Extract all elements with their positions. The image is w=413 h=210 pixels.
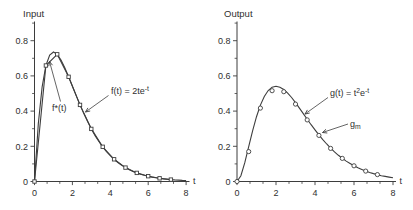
circle-marker [235, 179, 239, 183]
leader-line [50, 62, 61, 102]
g-curve-line [237, 86, 393, 181]
x-tick-label: 4 [108, 188, 113, 198]
y-tick-label: 0 [23, 177, 28, 187]
g-m-label-text: gm [350, 119, 361, 130]
circle-marker [364, 169, 368, 173]
y-tick-label: 0.2 [218, 142, 231, 152]
y-tick-label: 0 [225, 177, 230, 187]
leader-line [323, 124, 349, 133]
x-tick-label: 4 [312, 188, 317, 198]
y-tick-label: 0.2 [15, 142, 28, 152]
x-axis-label: t [400, 176, 403, 186]
square-marker [67, 75, 70, 78]
charts-canvas: 00.20.40.60.802468tInputf*(t)f(t) = 2te-… [0, 0, 413, 210]
circle-marker [282, 90, 286, 94]
leader-line [86, 96, 109, 113]
square-marker [158, 177, 161, 180]
leader-line [305, 98, 328, 115]
y-axis-ticks: 00.20.40.60.8 [15, 23, 34, 187]
f-curve-label: f(t) = 2te-t [86, 85, 150, 112]
circle-marker [352, 164, 356, 168]
square-marker [147, 175, 150, 178]
x-tick-label: 0 [32, 188, 37, 198]
g-m-label: gm [323, 119, 362, 133]
f-curve-line [35, 52, 187, 182]
chart-title: Input [23, 8, 44, 19]
circle-marker [247, 150, 251, 154]
y-tick-label: 0.8 [218, 36, 231, 46]
f-curve-label-text: f(t) = 2te-t [111, 85, 149, 96]
x-tick-label: 8 [390, 188, 395, 198]
square-marker [90, 127, 93, 130]
square-marker [101, 145, 104, 148]
x-axis-label: t [193, 176, 196, 186]
g-curve [237, 86, 393, 181]
x-axis-ticks: 02468 [32, 182, 189, 199]
circle-marker [270, 89, 274, 93]
square-marker [169, 178, 172, 181]
output-chart: 00.20.40.60.802468tOutputg(t) = t2e-tgm [218, 8, 403, 198]
x-tick-label: 0 [234, 188, 239, 198]
input-chart: 00.20.40.60.802468tInputf*(t)f(t) = 2te-… [15, 8, 196, 198]
f-curve [35, 52, 187, 182]
x-tick-label: 6 [351, 188, 356, 198]
circle-marker [258, 106, 262, 110]
x-axis-ticks: 02468 [234, 182, 395, 199]
square-marker [112, 158, 115, 161]
dual-plot-figure: 00.20.40.60.802468tInputf*(t)f(t) = 2te-… [0, 0, 413, 210]
x-tick-label: 6 [146, 188, 151, 198]
circle-marker [375, 173, 379, 177]
y-axis-ticks: 00.20.40.60.8 [218, 23, 237, 187]
f-star-label: f*(t) [49, 62, 67, 114]
y-tick-label: 0.8 [15, 36, 28, 46]
g-curve-label-text: g(t) = t2e-t [330, 87, 369, 98]
y-tick-label: 0.6 [218, 71, 231, 81]
circle-marker [305, 118, 309, 122]
circle-marker [317, 133, 321, 137]
circle-marker [293, 102, 297, 106]
x-tick-label: 2 [273, 188, 278, 198]
y-tick-label: 0.4 [15, 106, 28, 116]
y-tick-label: 0.4 [218, 106, 231, 116]
g-m-samples [235, 89, 380, 184]
f-star-samples [33, 53, 173, 184]
axes [237, 22, 396, 182]
g-curve-label: g(t) = t2e-t [305, 87, 369, 114]
chart-title: Output [224, 8, 253, 19]
square-marker [44, 64, 47, 67]
square-marker [33, 180, 36, 183]
square-marker [78, 103, 81, 106]
f-star-label-text: f*(t) [52, 103, 67, 113]
y-tick-label: 0.6 [15, 71, 28, 81]
square-marker [124, 166, 127, 169]
f-star-samples-polyline [35, 54, 171, 181]
circle-marker [340, 156, 344, 160]
x-tick-label: 8 [184, 188, 189, 198]
square-marker [56, 53, 59, 56]
square-marker [135, 171, 138, 174]
x-tick-label: 2 [70, 188, 75, 198]
circle-marker [329, 146, 333, 150]
